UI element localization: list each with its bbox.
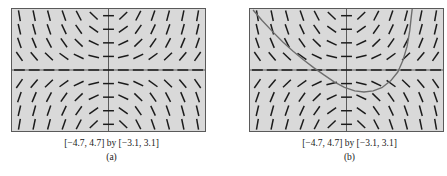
slope-dash bbox=[89, 26, 98, 32]
slope-dash bbox=[271, 10, 273, 21]
figure-panel-b: [−4.7, 4.7] by [−3.1, 3.1] (b) bbox=[223, 0, 446, 176]
slope-dash bbox=[314, 11, 319, 21]
slope-dash bbox=[18, 105, 20, 116]
slope-dash bbox=[256, 105, 258, 116]
slope-dash bbox=[389, 106, 394, 116]
solution-curve bbox=[253, 9, 412, 92]
slope-dash bbox=[136, 120, 141, 130]
slope-dash bbox=[119, 26, 128, 32]
slope-dash bbox=[46, 92, 51, 102]
slope-field-svg-a bbox=[12, 9, 205, 131]
slope-dash bbox=[151, 119, 155, 129]
slope-dash bbox=[374, 11, 379, 21]
slope-dash bbox=[118, 41, 128, 46]
slope-dash bbox=[357, 12, 365, 19]
slope-dash bbox=[90, 121, 98, 128]
slope-dash bbox=[405, 119, 408, 129]
slope-dash bbox=[76, 120, 81, 130]
slope-dash bbox=[76, 106, 82, 115]
slope-dash bbox=[197, 119, 199, 130]
slope-dash bbox=[256, 24, 258, 35]
slope-dash bbox=[179, 52, 186, 60]
slope-dash bbox=[76, 11, 81, 21]
slope-dash bbox=[76, 25, 82, 34]
slope-dash bbox=[388, 38, 394, 47]
slope-dash bbox=[387, 53, 396, 59]
slope-dash bbox=[433, 79, 439, 88]
slope-dash bbox=[196, 105, 198, 116]
slope-dash bbox=[45, 80, 53, 88]
slope-dash bbox=[167, 10, 170, 20]
slope-dash bbox=[372, 93, 380, 101]
slope-dash bbox=[164, 53, 172, 61]
slope-dash bbox=[283, 53, 291, 61]
slope-dash bbox=[373, 106, 379, 115]
slope-dash bbox=[33, 119, 35, 130]
slope-dash bbox=[271, 106, 274, 116]
slope-dash bbox=[402, 80, 410, 88]
slope-dash bbox=[167, 119, 170, 129]
slope-dash bbox=[254, 79, 260, 88]
slope-dash bbox=[151, 24, 156, 34]
slope-dash bbox=[299, 38, 305, 47]
slope-dash bbox=[89, 41, 99, 46]
slope-dash bbox=[389, 119, 393, 129]
slope-dash bbox=[89, 108, 98, 114]
slope-dash bbox=[75, 93, 83, 101]
slope-dash bbox=[61, 38, 67, 47]
slope-dash bbox=[181, 24, 184, 34]
slope-dash bbox=[283, 80, 291, 88]
slope-dash bbox=[74, 81, 84, 86]
slope-dash bbox=[388, 93, 394, 102]
slope-dash bbox=[404, 106, 408, 116]
slope-dash bbox=[327, 26, 336, 32]
slope-dash bbox=[417, 52, 424, 60]
slope-dash bbox=[314, 25, 320, 34]
slope-dash bbox=[404, 24, 408, 34]
slope-dash bbox=[419, 92, 423, 102]
slope-dash bbox=[196, 24, 198, 35]
figure-row: [−4.7, 4.7] by [−3.1, 3.1] (a) [−4.7, 4.… bbox=[0, 0, 447, 176]
slope-dash bbox=[357, 121, 365, 128]
slope-dash bbox=[357, 108, 366, 114]
slope-dash bbox=[374, 120, 379, 130]
slope-dash bbox=[134, 39, 142, 47]
slope-dash bbox=[328, 121, 336, 128]
slope-dash bbox=[18, 119, 20, 130]
slope-dash bbox=[357, 26, 366, 32]
slope-dash bbox=[18, 24, 20, 35]
slope-dash bbox=[256, 92, 260, 102]
slope-dash bbox=[196, 38, 200, 48]
slope-dash bbox=[88, 55, 99, 58]
slope-dash bbox=[136, 11, 141, 21]
slope-dash bbox=[269, 79, 276, 87]
slope-dash bbox=[389, 11, 393, 21]
slope-dash bbox=[134, 93, 142, 101]
slope-dash bbox=[314, 120, 319, 130]
slope-field-plot-a bbox=[11, 8, 206, 132]
slope-dash bbox=[48, 10, 51, 20]
slope-dash bbox=[151, 106, 156, 116]
slope-dash bbox=[300, 119, 304, 129]
slope-dash bbox=[419, 38, 423, 48]
slope-dash bbox=[62, 119, 66, 129]
slope-dash bbox=[356, 95, 366, 100]
slope-dash bbox=[151, 11, 155, 21]
slope-dash bbox=[420, 10, 422, 21]
slope-dash bbox=[166, 92, 171, 102]
slope-dash bbox=[33, 24, 36, 34]
slope-dash bbox=[32, 92, 36, 102]
slope-dash bbox=[182, 119, 184, 130]
slope-dash bbox=[47, 24, 51, 34]
slope-dash bbox=[284, 92, 289, 102]
slope-dash bbox=[31, 52, 38, 60]
slope-dash bbox=[179, 79, 186, 87]
slope-dash bbox=[314, 106, 320, 115]
slope-dash bbox=[181, 92, 185, 102]
slope-dash bbox=[88, 82, 99, 85]
slope-dash bbox=[18, 92, 22, 102]
slope-dash bbox=[149, 53, 158, 59]
slope-dash bbox=[181, 106, 184, 116]
slope-dash bbox=[356, 41, 366, 46]
slope-dash bbox=[135, 25, 141, 34]
